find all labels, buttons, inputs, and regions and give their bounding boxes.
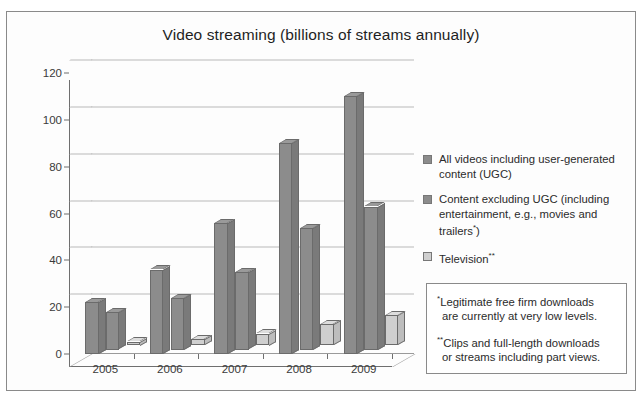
bar-side-face — [398, 311, 405, 346]
y-axis-tick — [64, 213, 69, 214]
bar-2007-series2 — [235, 272, 248, 349]
legend-item-television: Television** — [423, 249, 628, 266]
legend-swatch-icon-all-videos — [423, 155, 432, 164]
bar-2008-series1 — [279, 143, 292, 354]
bar-2007-series3 — [256, 334, 269, 346]
bar-front-face — [364, 207, 377, 350]
bar-front-face — [106, 312, 119, 349]
chart-legend: All videos including user-generatedconte… — [423, 152, 628, 278]
floor-back-edge — [91, 353, 414, 354]
gridline-depth-edge — [69, 187, 115, 201]
bar-front-face — [279, 143, 292, 354]
chart-figure: Video streaming (billions of streams ann… — [6, 11, 636, 391]
bar-2005-series3 — [127, 342, 140, 346]
y-axis-line — [69, 80, 70, 367]
y-axis-tick — [64, 307, 69, 308]
x-axis-tick-label: 2008 — [286, 363, 312, 375]
footnotes-box: *Legitimate free firm downloadsare curre… — [426, 283, 627, 374]
floor-right-edge — [392, 354, 417, 367]
bar-2008-series3 — [320, 324, 333, 345]
bar-front-face — [171, 298, 184, 350]
chart-title: Video streaming (billions of streams ann… — [7, 26, 635, 44]
gridline-depth-edge — [69, 93, 115, 107]
x-axis-tick-label: 2007 — [222, 363, 248, 375]
y-axis-tick — [64, 166, 69, 167]
legend-item-content-excluding-ugc: Content excluding UGC (includingentertai… — [423, 192, 628, 238]
y-axis-tick-label: 40 — [49, 254, 62, 266]
x-axis-tick — [198, 354, 199, 359]
bar-2009-series1 — [344, 96, 357, 354]
bar-2009-series3 — [385, 315, 398, 345]
bar-side-face — [99, 298, 106, 354]
bar-front-face — [127, 342, 140, 346]
legend-item-all-videos: All videos including user-generatedconte… — [423, 152, 628, 181]
gridline-depth-edge — [69, 140, 115, 154]
gridline-depth-edge — [69, 281, 115, 295]
bar-front-face — [344, 96, 357, 354]
y-axis-tick-label: 100 — [43, 114, 62, 126]
y-axis-tick — [64, 73, 69, 74]
bar-front-face — [150, 270, 163, 354]
x-axis-tick — [134, 354, 135, 359]
footnote-1: *Legitimate free firm downloadsare curre… — [437, 292, 617, 324]
gridline-depth-edge — [69, 47, 115, 61]
bar-2007-series1 — [214, 223, 227, 354]
x-axis-tick-label: 2006 — [157, 363, 183, 375]
bar-front-face — [214, 223, 227, 354]
footnote-2: **Clips and full-length downloadsor stre… — [437, 333, 617, 365]
bar-side-face — [119, 308, 126, 350]
bar-front-face — [385, 315, 398, 345]
bar-2008-series2 — [300, 228, 313, 350]
bar-2005-series1 — [85, 302, 98, 354]
x-axis-tick — [327, 354, 328, 359]
bar-side-face — [228, 219, 235, 354]
y-axis-tick — [64, 354, 69, 355]
bar-side-face — [378, 203, 385, 350]
legend-swatch-icon-television — [423, 252, 432, 261]
gridline-depth-edge — [69, 234, 115, 248]
gridline — [91, 106, 414, 107]
x-axis-tick — [263, 354, 264, 359]
y-axis-tick — [64, 119, 69, 120]
bar-front-face — [191, 339, 204, 345]
bar-2006-series1 — [150, 270, 163, 354]
bar-front-face — [320, 324, 333, 345]
y-axis-tick — [64, 260, 69, 261]
y-axis-tick-label: 20 — [49, 301, 62, 313]
plot-area: 020406080100120 20052006200720082009 — [69, 67, 414, 367]
gridline — [91, 200, 414, 201]
gridline — [91, 153, 414, 154]
bar-2006-series3 — [191, 339, 204, 345]
bar-side-face — [292, 139, 299, 354]
bar-side-face — [334, 320, 341, 345]
bar-2009-series2 — [364, 207, 377, 350]
bar-2005-series2 — [106, 312, 119, 349]
y-axis-tick-label: 0 — [56, 348, 62, 360]
bar-side-face — [184, 294, 191, 350]
bar-side-face — [313, 224, 320, 350]
bar-front-face — [256, 334, 269, 346]
bar-side-face — [249, 268, 256, 349]
legend-label-all-videos: All videos including user-generatedconte… — [439, 152, 615, 181]
bar-2006-series2 — [171, 298, 184, 350]
legend-label-content-excluding-ugc: Content excluding UGC (includingentertai… — [439, 192, 609, 238]
y-axis-tick-label: 120 — [43, 67, 62, 79]
x-axis-tick-label: 2005 — [93, 363, 119, 375]
bar-front-face — [85, 302, 98, 354]
gridline — [91, 60, 414, 61]
footnote-marker-double: ** — [489, 251, 495, 260]
x-axis-tick — [392, 354, 393, 359]
bar-side-face — [163, 265, 170, 354]
bar-front-face — [300, 228, 313, 350]
legend-label-television: Television** — [439, 249, 495, 266]
y-axis-tick-label: 80 — [49, 161, 62, 173]
bar-front-face — [235, 272, 248, 349]
x-axis-tick-label: 2009 — [351, 363, 377, 375]
y-axis-tick-label: 60 — [49, 208, 62, 220]
legend-swatch-icon-content-excluding-ugc — [423, 195, 432, 204]
bar-side-face — [357, 92, 364, 354]
